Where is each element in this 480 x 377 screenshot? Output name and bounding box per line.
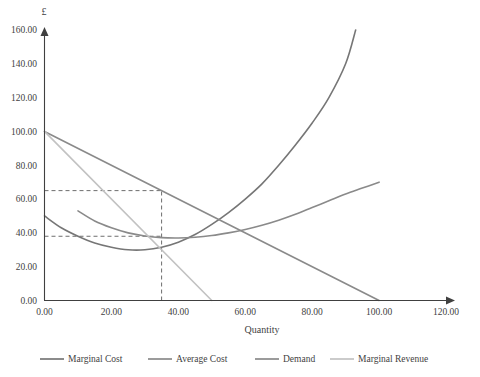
x-tick-label: 120.00	[433, 307, 459, 317]
x-tick-label: 40.00	[168, 307, 190, 317]
x-tick-label: 60.00	[235, 307, 257, 317]
legend-label-demand: Demand	[283, 354, 315, 364]
legend-label-marginal-cost: Marginal Cost	[68, 354, 123, 364]
y-tick-label: 100.00	[11, 127, 37, 137]
x-axis-arrowhead	[446, 297, 455, 305]
y-tick-label: 60.00	[16, 194, 38, 204]
y-tick-label: 120.00	[11, 93, 37, 103]
series-demand	[45, 131, 380, 300]
y-axis-tick-labels: 0.0020.0040.0060.0080.00100.00120.00140.…	[11, 25, 37, 306]
y-tick-label: 20.00	[16, 262, 38, 272]
y-axis-title: £	[42, 6, 47, 17]
x-axis-tick-labels: 0.0020.0040.0060.0080.00100.00120.00	[36, 307, 459, 317]
y-tick-label: 0.00	[20, 296, 37, 306]
x-tick-label: 80.00	[301, 307, 323, 317]
economics-line-chart: 0.0020.0040.0060.0080.00100.00120.00140.…	[0, 0, 480, 377]
x-tick-label: 20.00	[101, 307, 123, 317]
x-tick-label: 0.00	[36, 307, 53, 317]
chart-legend: Marginal CostAverage CostDemandMarginal …	[40, 354, 428, 364]
y-tick-label: 140.00	[11, 59, 37, 69]
x-tick-label: 100.00	[366, 307, 392, 317]
y-tick-label: 80.00	[16, 161, 38, 171]
y-tick-label: 160.00	[11, 25, 37, 35]
legend-label-average-cost: Average Cost	[176, 354, 228, 364]
legend-label-marginal-revenue: Marginal Revenue	[358, 354, 428, 364]
series-group	[45, 30, 380, 301]
series-marginal-revenue	[45, 131, 212, 300]
x-axis-title: Quantity	[245, 324, 280, 335]
y-tick-label: 40.00	[16, 228, 38, 238]
series-marginal-cost	[45, 30, 356, 250]
y-axis-arrowhead	[41, 27, 49, 36]
chart-container: 0.0020.0040.0060.0080.00100.00120.00140.…	[0, 0, 480, 377]
